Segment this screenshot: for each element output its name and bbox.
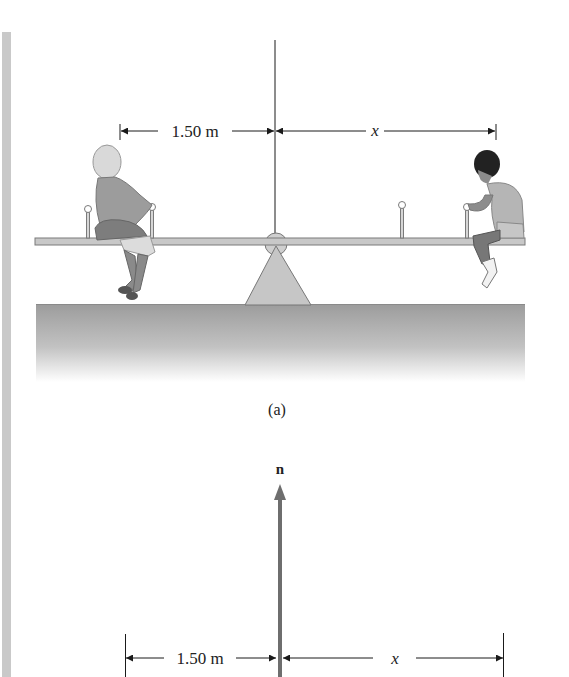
seesaw-figure: 1.50 m x (a) n 1.50 m x bbox=[0, 0, 569, 677]
normal-force-arrow bbox=[278, 498, 282, 677]
figure-b: n 1.50 m x bbox=[126, 461, 504, 677]
distance-label-right-a: x bbox=[370, 121, 379, 140]
distance-label-right-b: x bbox=[390, 649, 399, 668]
girl-figure bbox=[93, 145, 155, 300]
caption-a: (a) bbox=[268, 401, 286, 419]
fulcrum-triangle bbox=[245, 246, 311, 305]
boy-figure bbox=[468, 150, 524, 288]
force-label-n: n bbox=[276, 461, 285, 477]
distance-label-left-a: 1.50 m bbox=[171, 122, 218, 141]
distance-label-left-b: 1.50 m bbox=[176, 649, 223, 668]
arrow-head-icon bbox=[274, 484, 286, 500]
figure-a: 1.50 m x (a) bbox=[35, 40, 525, 419]
ground bbox=[36, 304, 525, 382]
